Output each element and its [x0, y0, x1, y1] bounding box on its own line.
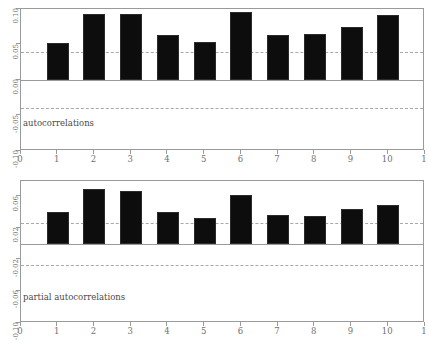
pacf-x-tick-label: 8	[311, 326, 316, 336]
pacf-x-tick-label: 4	[164, 326, 169, 336]
pacf-x-tick-label: 6	[238, 326, 243, 336]
bar-lag-1	[47, 43, 69, 80]
acf-x-tick-label: 8	[311, 154, 316, 164]
bar-lag-10	[377, 205, 399, 244]
pacf-x-tick-label: 10	[382, 326, 393, 336]
bar-lag-10	[377, 15, 399, 80]
bar-lag-9	[341, 27, 363, 80]
acf-x-tick-label: 9	[348, 154, 353, 164]
pacf-confidence-bound-upper	[21, 223, 423, 224]
acf-x-tick-label: 10	[382, 154, 393, 164]
acf-x-tick-label: 1	[421, 154, 426, 164]
bar-lag-3	[120, 14, 142, 80]
acf-caption: autocorrelations	[23, 118, 94, 128]
bar-lag-5	[194, 218, 216, 244]
correlogram-figure: 0.100.050.00-0.05-0.10 0123456789101 aut…	[0, 0, 429, 345]
bar-lag-3	[120, 191, 142, 244]
acf-x-tick-label: 5	[201, 154, 206, 164]
bar-lag-8	[304, 34, 326, 80]
bar-lag-6	[230, 195, 252, 244]
pacf-zero-line	[21, 244, 423, 245]
bar-lag-6	[230, 12, 252, 80]
pacf-panel: 0.060.02-0.02-0.06-0.10 0123456789101 pa…	[0, 172, 429, 345]
acf-x-axis: 0123456789101	[20, 150, 424, 170]
acf-x-tick-label: 2	[91, 154, 96, 164]
acf-confidence-bound-lower	[21, 108, 423, 109]
acf-plot-frame	[20, 8, 424, 150]
bar-lag-7	[267, 215, 289, 244]
acf-plot-area	[21, 9, 423, 149]
pacf-x-tick-label: 1	[54, 326, 59, 336]
acf-confidence-bound-upper	[21, 52, 423, 53]
acf-x-tick-label: 6	[238, 154, 243, 164]
bar-lag-9	[341, 209, 363, 244]
bar-lag-1	[47, 212, 69, 244]
pacf-x-tick-label: 2	[91, 326, 96, 336]
pacf-caption: partial autocorrelations	[23, 292, 125, 302]
bar-lag-4	[157, 35, 179, 80]
bar-lag-8	[304, 216, 326, 244]
bar-lag-5	[194, 42, 216, 80]
acf-x-tick-label: 1	[54, 154, 59, 164]
acf-panel: 0.100.050.00-0.05-0.10 0123456789101 aut…	[0, 0, 429, 172]
bar-lag-2	[83, 189, 105, 244]
bar-lag-4	[157, 212, 179, 244]
pacf-x-tick-label: 3	[127, 326, 132, 336]
pacf-x-tick-label: 0	[17, 326, 22, 336]
pacf-x-tick-label: 5	[201, 326, 206, 336]
pacf-x-tick-label: 9	[348, 326, 353, 336]
pacf-confidence-bound-lower	[21, 265, 423, 266]
acf-x-tick-label: 4	[164, 154, 169, 164]
bar-lag-7	[267, 35, 289, 80]
pacf-x-tick-label: 1	[421, 326, 426, 336]
acf-x-tick-label: 3	[127, 154, 132, 164]
acf-x-tick-label: 7	[274, 154, 279, 164]
acf-x-tick-label: 0	[17, 154, 22, 164]
acf-zero-line	[21, 80, 423, 81]
pacf-x-axis: 0123456789101	[20, 322, 424, 342]
bar-lag-2	[83, 14, 105, 80]
pacf-x-tick-label: 7	[274, 326, 279, 336]
